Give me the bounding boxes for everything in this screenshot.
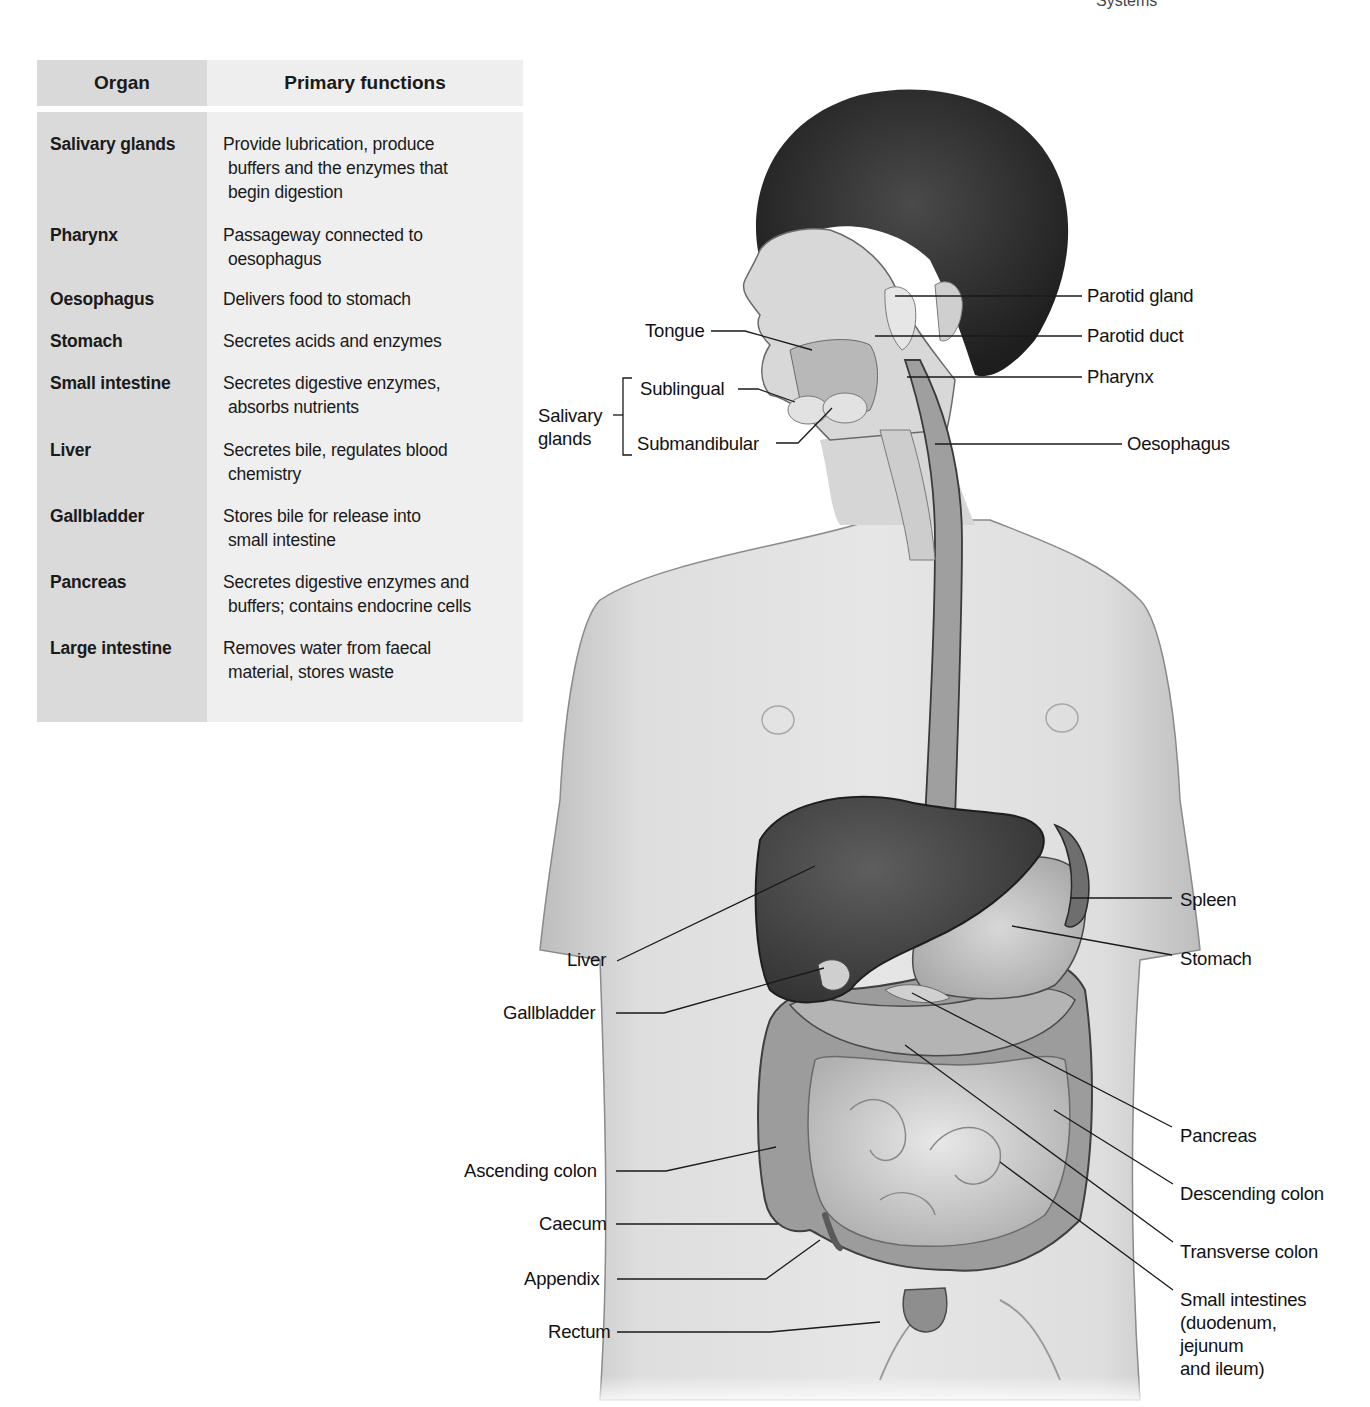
label-appendix: Appendix xyxy=(524,1267,600,1290)
label-small-intestines-4: and ileum) xyxy=(1180,1357,1264,1380)
label-sublingual: Sublingual xyxy=(640,377,724,400)
head xyxy=(743,89,1068,440)
label-salivary-glands-2: glands xyxy=(538,427,591,450)
label-salivary-glands-1: Salivary xyxy=(538,404,602,427)
rectum xyxy=(903,1288,947,1332)
label-parotid-duct: Parotid duct xyxy=(1087,324,1183,347)
label-pharynx: Pharynx xyxy=(1087,365,1153,388)
gallbladder xyxy=(818,960,850,990)
sublingual-gland xyxy=(788,396,828,424)
small-intestine xyxy=(808,1057,1070,1247)
label-ascending-colon: Ascending colon xyxy=(464,1159,597,1182)
label-small-intestines-3: jejunum xyxy=(1180,1334,1243,1357)
label-tongue: Tongue xyxy=(645,319,705,342)
digestive-system-illustration xyxy=(0,0,1370,1407)
label-rectum: Rectum xyxy=(548,1320,611,1343)
label-transverse-colon: Transverse colon xyxy=(1180,1240,1318,1263)
label-stomach: Stomach xyxy=(1180,947,1252,970)
label-oesophagus: Oesophagus xyxy=(1127,432,1230,455)
label-submandibular: Submandibular xyxy=(637,432,759,455)
label-liver: Liver xyxy=(567,948,606,971)
label-spleen: Spleen xyxy=(1180,888,1236,911)
label-descending-colon: Descending colon xyxy=(1180,1182,1324,1205)
label-small-intestines-2: (duodenum, xyxy=(1180,1311,1277,1334)
label-parotid-gland: Parotid gland xyxy=(1087,284,1193,307)
label-small-intestines-1: Small intestines xyxy=(1180,1288,1306,1311)
label-gallbladder: Gallbladder xyxy=(503,1001,595,1024)
label-pancreas: Pancreas xyxy=(1180,1124,1257,1147)
label-caecum: Caecum xyxy=(539,1212,607,1235)
submandibular-gland xyxy=(823,393,867,423)
